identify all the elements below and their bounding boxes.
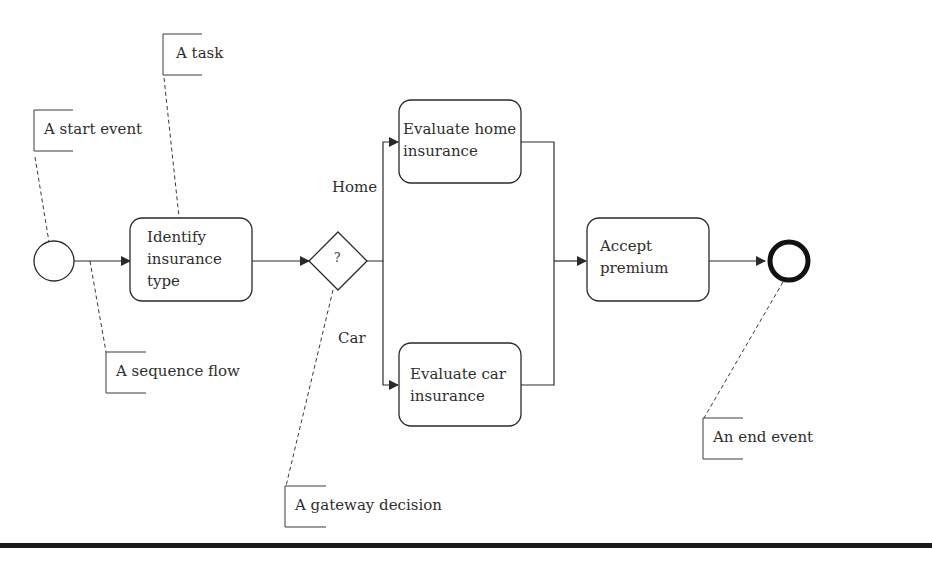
- end-event[interactable]: [770, 242, 808, 280]
- task-identify-line-3: type: [147, 270, 222, 292]
- annotation-gateway-label: A gateway decision: [295, 495, 442, 515]
- flow-car-to-accept[interactable]: [521, 261, 554, 385]
- flow-gateway-to-car[interactable]: [383, 261, 398, 385]
- task-eval-home-line-2: insurance: [403, 140, 516, 162]
- association-end-event: [704, 282, 783, 418]
- association-task: [164, 78, 180, 226]
- bpmn-diagram-canvas: [0, 0, 932, 566]
- annotation-task-label: A task: [176, 43, 223, 63]
- annotation-sequence-flow-label: A sequence flow: [116, 361, 240, 381]
- task-eval-home-label: Evaluate home insurance: [403, 118, 516, 162]
- task-accept-line-2: premium: [600, 257, 669, 279]
- branch-label-home: Home: [332, 177, 377, 197]
- task-identify-label: Identify insurance type: [147, 226, 222, 292]
- gateway-symbol: ?: [334, 248, 340, 268]
- flow-home-to-accept[interactable]: [521, 142, 554, 261]
- association-sequence-flow: [90, 261, 106, 352]
- start-event[interactable]: [34, 241, 74, 281]
- task-identify-line-2: insurance: [147, 248, 222, 270]
- annotation-start-event-label: A start event: [44, 119, 142, 139]
- task-eval-car-line-2: insurance: [410, 385, 506, 407]
- flow-gateway-to-home[interactable]: [367, 142, 398, 261]
- task-identify-line-1: Identify: [147, 226, 222, 248]
- association-start-event: [35, 157, 50, 248]
- task-eval-home-line-1: Evaluate home: [403, 118, 516, 140]
- task-eval-car-label: Evaluate car insurance: [410, 363, 506, 407]
- task-accept-label: Accept premium: [600, 235, 669, 279]
- bottom-divider-bar: [0, 543, 932, 548]
- task-accept-line-1: Accept: [600, 235, 669, 257]
- task-eval-car-line-1: Evaluate car: [410, 363, 506, 385]
- annotation-end-event-label: An end event: [713, 427, 813, 447]
- association-gateway: [286, 290, 333, 486]
- branch-label-car: Car: [338, 328, 366, 348]
